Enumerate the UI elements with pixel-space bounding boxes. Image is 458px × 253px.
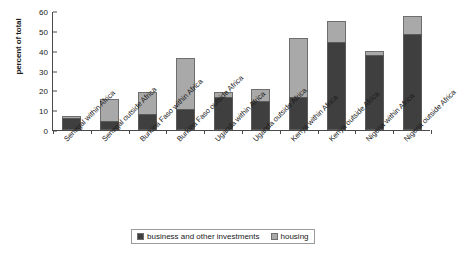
bar-segment-housing (327, 21, 346, 42)
y-tick-label-20: 20 (39, 87, 53, 96)
bar-column (327, 21, 346, 130)
bar-stack (403, 16, 422, 130)
bar-segment-business (403, 34, 422, 130)
y-tick-label-60: 60 (39, 8, 53, 17)
legend-swatch-housing (271, 233, 278, 240)
bar-column (289, 38, 308, 130)
chart-legend: business and other investmentshousing (131, 229, 315, 244)
x-axis-labels: Senegal within AfricaSenegal outside Afr… (0, 131, 434, 221)
y-tick-label-30: 30 (39, 67, 53, 76)
y-tick-label-10: 10 (39, 107, 53, 116)
y-axis-title: percent of total (14, 7, 23, 87)
legend-label: housing (281, 232, 309, 241)
bar-stack (289, 38, 308, 130)
bar-segment-housing (403, 16, 422, 34)
bar-column (403, 16, 422, 130)
legend-item[interactable]: business and other investments (137, 232, 260, 241)
y-tick-label-50: 50 (39, 27, 53, 36)
legend-item[interactable]: housing (271, 232, 309, 241)
bar-stack (327, 21, 346, 130)
bar-segment-business (327, 42, 346, 130)
y-tick-label-40: 40 (39, 47, 53, 56)
legend-swatch-business (137, 233, 144, 240)
legend-label: business and other investments (147, 232, 260, 241)
